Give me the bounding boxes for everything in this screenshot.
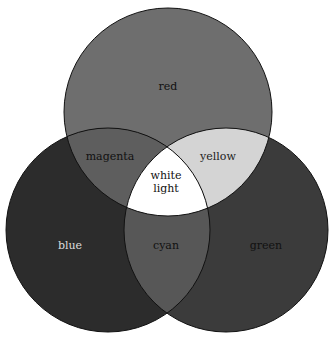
label-blue: blue (58, 239, 82, 252)
label-white: white (151, 169, 182, 182)
label-green: green (250, 239, 282, 252)
label-magenta: magenta (86, 150, 135, 163)
label-yellow: yellow (199, 150, 236, 163)
label-red: red (159, 80, 178, 93)
color-venn-diagram: red magenta yellow white light blue cyan… (0, 0, 335, 341)
label-light: light (153, 182, 179, 195)
label-cyan: cyan (153, 239, 179, 252)
